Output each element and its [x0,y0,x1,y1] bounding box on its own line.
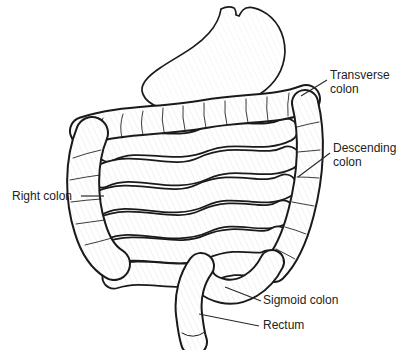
label-line: Sigmoid colon [263,293,338,307]
label-descending-colon: Descending colon [333,141,396,169]
anatomy-figure: Transverse colon Descending colon Right … [0,0,402,350]
label-line: colon [330,82,390,96]
label-line: Right colon [12,189,72,203]
gi-tract-illustration [0,0,402,350]
label-line: Transverse [330,68,390,82]
leader-rectum [199,314,259,326]
label-sigmoid-colon: Sigmoid colon [263,293,338,307]
rectum-drawing [182,266,205,342]
label-transverse-colon: Transverse colon [330,68,390,96]
label-right-colon: Right colon [12,189,72,203]
label-line: Rectum [263,318,304,332]
small-intestine-drawing [99,118,288,277]
label-line: colon [333,155,396,169]
label-line: Descending [333,141,396,155]
label-rectum: Rectum [263,318,304,332]
